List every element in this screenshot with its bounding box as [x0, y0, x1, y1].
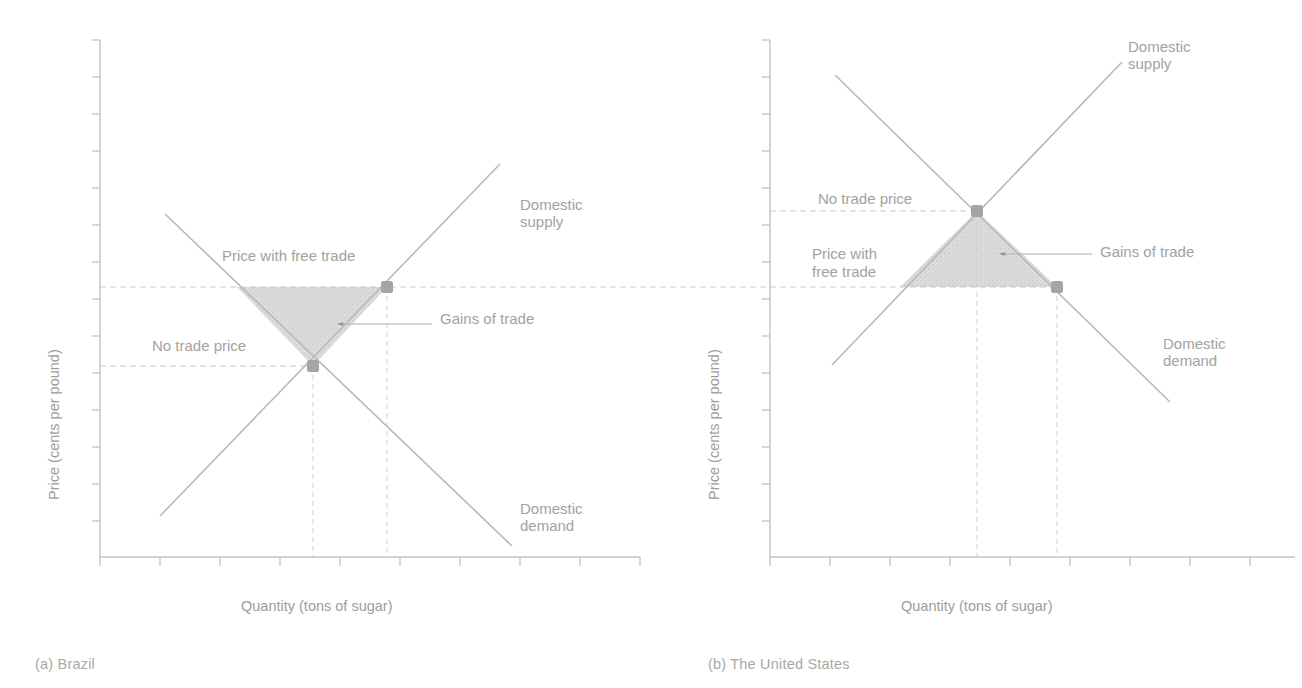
price-with-free-trade-label-us: Price with free trade — [812, 245, 877, 281]
domestic-supply-label-brazil: Domestic supply — [520, 196, 583, 230]
chart-panel-united-states: Domestic supply Domestic demand Price wi… — [660, 0, 1302, 688]
gains-of-trade-region-us — [900, 211, 1057, 287]
no-trade-equilibrium-marker-brazil — [307, 360, 319, 372]
domestic-demand-curve-us — [835, 75, 1170, 402]
domestic-demand-label-us: Domestic demand — [1163, 335, 1226, 369]
y-ticks-brazil — [92, 40, 100, 521]
chart-panel-brazil: Domestic supply Domestic demand Price wi… — [0, 0, 660, 688]
x-ticks-us — [770, 557, 1250, 566]
x-axis-title-us: Quantity (tons of sugar) — [901, 598, 1053, 614]
no-trade-price-label-brazil: No trade price — [152, 337, 246, 354]
y-axis-title-brazil: Price (cents per pound) — [46, 349, 62, 500]
free-trade-quantity-marker-brazil — [381, 281, 393, 293]
panel-caption-us: (b) The United States — [708, 656, 850, 672]
no-trade-price-label-us: No trade price — [818, 190, 912, 207]
gains-of-trade-label-brazil: Gains of trade — [440, 310, 534, 327]
panel-caption-brazil: (a) Brazil — [35, 656, 95, 672]
y-axis-title-us: Price (cents per pound) — [706, 349, 722, 500]
price-with-free-trade-label-brazil: Price with free trade — [222, 247, 355, 264]
gains-of-trade-label-us: Gains of trade — [1100, 243, 1194, 260]
no-trade-equilibrium-marker-us — [971, 205, 983, 217]
domestic-supply-label-us: Domestic supply — [1128, 38, 1191, 72]
x-ticks-brazil — [100, 557, 640, 566]
free-trade-quantity-marker-us — [1051, 281, 1063, 293]
x-axis-title-brazil: Quantity (tons of sugar) — [241, 598, 393, 614]
brazil-plot-svg — [0, 0, 660, 688]
domestic-demand-label-brazil: Domestic demand — [520, 500, 583, 534]
y-ticks-us — [762, 40, 770, 521]
